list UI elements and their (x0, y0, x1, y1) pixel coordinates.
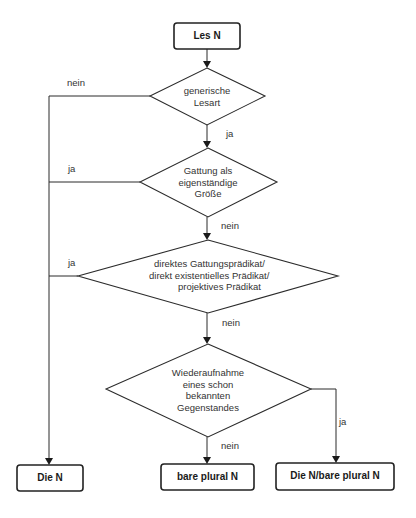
start-label: Les N (174, 30, 240, 41)
decision-label-d3: direktes Gattungsprädikat/ direkt existe… (130, 258, 300, 293)
decision-line: eigenständige (155, 177, 261, 189)
decision-line: Lesart (157, 97, 257, 109)
arrow-head (45, 458, 53, 465)
outcome-label-die-n: Die N (17, 472, 83, 483)
decision-label-d1: generische Lesart (157, 85, 257, 108)
decision-line: Wiederaufnahme (158, 367, 258, 379)
decision-line: direkt existentielles Prädikat/ (130, 270, 300, 282)
decision-line: Gattung als (155, 165, 261, 177)
decision-line: Größe (155, 188, 261, 200)
decision-line: projektives Prädikat (130, 281, 300, 293)
edge-label-d3-ja: ja (68, 257, 75, 268)
arrow-head (332, 456, 340, 463)
decision-label-d2: Gattung als eigenständige Größe (155, 165, 261, 200)
arrow-head (203, 457, 211, 464)
edge-label-d4-nein: nein (221, 440, 239, 451)
decision-line: Gegenstandes (158, 402, 258, 414)
decision-line: generische (157, 85, 257, 97)
decision-line: bekannten (158, 390, 258, 402)
edge-label-d2-nein: nein (221, 220, 239, 231)
decision-line: direktes Gattungsprädikat/ (130, 258, 300, 270)
decision-label-d4: Wiederaufnahme eines schon bekannten Geg… (158, 367, 258, 413)
arrow-head (203, 61, 211, 68)
edge-label-d3-nein: nein (222, 317, 240, 328)
edge-label-d1-nein: nein (67, 77, 85, 88)
arrow-head (203, 337, 211, 344)
outcome-label-bare-plural-n: bare plural N (161, 471, 254, 482)
arrow-head (203, 233, 211, 240)
outcome-label-die-n-bare-plural-n: Die N/bare plural N (276, 470, 394, 481)
decision-line: eines schon (158, 379, 258, 391)
edge-d4-o3 (311, 389, 336, 457)
edge-label-d2-ja: ja (68, 163, 75, 174)
edge-label-d1-ja: ja (226, 128, 233, 139)
arrow-head (203, 141, 211, 148)
edge-label-d4-ja: ja (339, 416, 346, 427)
